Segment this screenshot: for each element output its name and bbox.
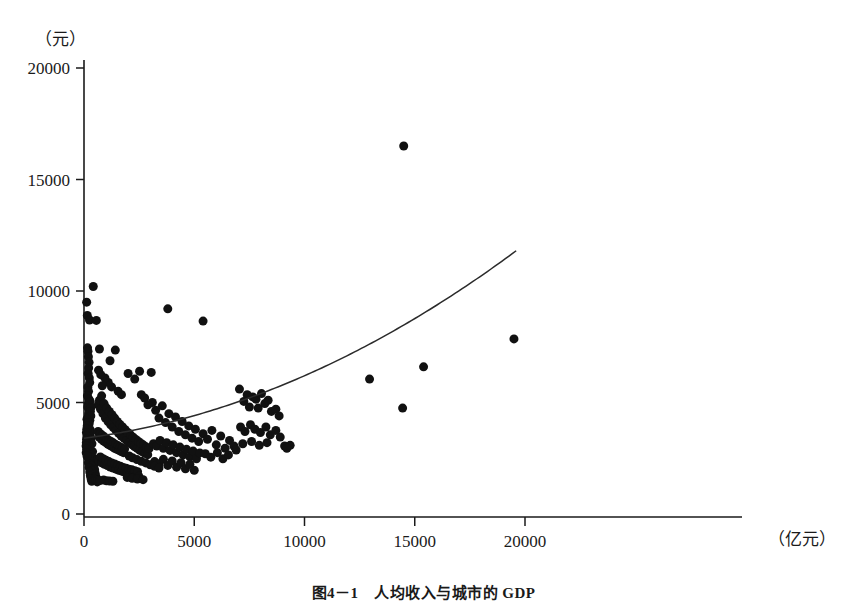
- scatter-point: [94, 366, 103, 375]
- scatter-point: [235, 385, 244, 394]
- scatter-point: [276, 433, 285, 442]
- scatter-point: [194, 437, 203, 446]
- scatter-point: [106, 356, 115, 365]
- scatter-point: [263, 438, 272, 447]
- y-tick-label: 20000: [28, 59, 71, 78]
- scatter-point: [255, 441, 264, 450]
- scatter-point: [419, 362, 428, 371]
- figure-caption: 图4－1 人均收入与城市的 GDP: [0, 583, 847, 603]
- scatter-point: [82, 452, 91, 461]
- plot-svg: 05000100001500020000 0500010000150002000…: [0, 0, 847, 565]
- y-tick-label: 5000: [36, 394, 70, 413]
- scatter-point: [92, 316, 101, 325]
- x-tick-label: 15000: [394, 532, 437, 551]
- x-axis-tick-labels: 05000100001500020000: [80, 532, 547, 551]
- scatter-point: [82, 298, 91, 307]
- scatter-point: [399, 142, 408, 151]
- scatter-point: [264, 396, 273, 405]
- y-axis-unit-label: （元）: [35, 30, 86, 49]
- scatter-point: [147, 368, 156, 377]
- scatter-point: [199, 317, 208, 326]
- scatter-point: [108, 477, 117, 486]
- y-tick-label: 0: [62, 505, 71, 524]
- scatter-point: [282, 444, 291, 453]
- scatter-point: [398, 404, 407, 413]
- scatter-point: [190, 466, 199, 475]
- scatter-point: [232, 446, 241, 455]
- x-axis-ticks: [84, 517, 525, 526]
- scatter-point: [130, 375, 139, 384]
- scatter-point: [224, 450, 233, 459]
- scatter-point: [143, 400, 152, 409]
- scatter-point: [98, 381, 107, 390]
- x-axis-unit-label: （亿元）: [768, 530, 836, 549]
- scatter-point: [245, 402, 254, 411]
- y-tick-label: 10000: [28, 282, 71, 301]
- scatter-point: [191, 425, 200, 434]
- scatter-point: [203, 435, 212, 444]
- scatter-point: [139, 475, 148, 484]
- figure-container: 05000100001500020000 0500010000150002000…: [0, 0, 847, 603]
- scatter-point: [89, 282, 98, 291]
- x-tick-label: 20000: [504, 532, 547, 551]
- x-tick-label: 10000: [283, 532, 326, 551]
- x-tick-label: 5000: [177, 532, 211, 551]
- scatter-point: [163, 304, 172, 313]
- scatter-point: [95, 476, 104, 485]
- scatter-point: [509, 334, 518, 343]
- scatter-plot: 05000100001500020000 0500010000150002000…: [0, 0, 847, 565]
- scatter-point: [111, 346, 120, 355]
- scatter-point: [95, 344, 104, 353]
- scatter-point: [261, 423, 270, 432]
- scatter-point: [158, 401, 167, 410]
- y-tick-label: 15000: [28, 171, 71, 190]
- scatter-point: [365, 375, 374, 384]
- scatter-point: [207, 426, 216, 435]
- scatter-point: [154, 464, 163, 473]
- y-axis-tick-labels: 05000100001500020000: [28, 59, 71, 524]
- x-tick-label: 0: [80, 532, 89, 551]
- scatter-point: [135, 367, 144, 376]
- scatter-point: [247, 437, 256, 446]
- scatter-point: [97, 391, 106, 400]
- scatter-point: [212, 440, 221, 449]
- fitted-trend-curve: [84, 251, 516, 438]
- scatter-point: [117, 390, 126, 399]
- scatter-points-layer: [82, 142, 519, 487]
- scatter-point: [275, 411, 284, 420]
- scatter-point: [238, 439, 247, 448]
- scatter-point: [216, 431, 225, 440]
